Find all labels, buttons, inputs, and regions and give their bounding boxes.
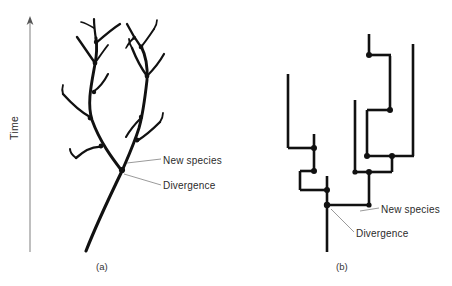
panel-a-leader-lines	[124, 159, 161, 185]
node-branch	[387, 107, 393, 113]
leader-divergence-b	[331, 209, 354, 232]
node-branch	[366, 52, 372, 58]
time-axis-label: Time	[8, 108, 20, 148]
figure-artwork	[0, 0, 452, 286]
node-branch	[135, 138, 140, 143]
node-divergence-b	[324, 202, 330, 208]
node-branch	[389, 153, 395, 159]
node-branch	[311, 168, 317, 174]
node-divergence-a	[119, 167, 125, 173]
leader-divergence-a	[124, 174, 161, 185]
annotation-divergence-b: Divergence	[356, 228, 409, 239]
node-branch	[366, 169, 372, 175]
node-branch	[94, 40, 98, 44]
annotation-new-species-b: New species	[381, 204, 440, 215]
node-branch	[93, 61, 98, 66]
annotation-new-species-a: New species	[163, 155, 222, 166]
node-branch	[352, 169, 357, 174]
panel-b-nodes	[311, 52, 395, 208]
panel-caption-b: (b)	[336, 261, 348, 272]
panel-b-tree	[288, 34, 414, 252]
node-branch	[139, 115, 143, 119]
node-branch	[145, 74, 150, 79]
node-branch	[92, 90, 96, 94]
node-branch	[311, 145, 317, 151]
figure-phylogenetic-tree-comparison: Time New species Divergence New species …	[0, 0, 452, 286]
node-branch	[99, 144, 104, 149]
node-branch	[324, 187, 330, 193]
time-axis	[27, 16, 34, 252]
node-branch	[88, 116, 93, 121]
leader-new-species-b	[360, 208, 379, 211]
node-branch	[366, 202, 371, 207]
panel-a-tree	[62, 19, 164, 251]
node-branch	[139, 45, 144, 50]
panel-caption-a: (a)	[96, 261, 108, 272]
node-branch	[132, 36, 135, 39]
annotation-divergence-a: Divergence	[163, 180, 216, 191]
node-branch	[364, 153, 370, 159]
leader-new-species-a	[127, 159, 161, 163]
